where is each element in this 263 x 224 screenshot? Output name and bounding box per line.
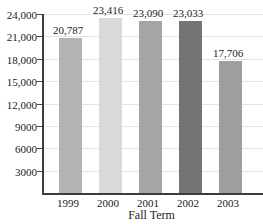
bar-value-label: 23,033	[158, 7, 218, 19]
y-tick-label: 15,000	[0, 76, 37, 88]
y-axis-tick	[37, 104, 42, 105]
bar-2003	[219, 61, 242, 193]
plot-area	[42, 14, 263, 195]
x-tick-label: 2003	[206, 197, 250, 209]
y-tick-label: 3000	[0, 166, 37, 178]
bar-2001	[139, 21, 162, 193]
bar-2000	[99, 18, 122, 193]
x-axis-title: Fall Term	[42, 209, 261, 222]
bar-1999	[59, 38, 82, 193]
bar-value-label: 17,706	[198, 47, 258, 59]
y-axis-tick	[37, 171, 42, 172]
y-axis-tick	[37, 126, 42, 127]
y-tick-label: 24,000	[0, 9, 37, 21]
y-axis-tick	[37, 81, 42, 82]
y-axis-tick	[37, 14, 42, 15]
y-tick-label: 18,000	[0, 54, 37, 66]
y-axis-tick	[37, 148, 42, 149]
y-tick-label: 21,000	[0, 31, 37, 43]
bar-chart: 30006000900012,00015,00018,00021,00024,0…	[0, 0, 263, 224]
y-axis-tick	[37, 36, 42, 37]
y-axis-tick	[37, 59, 42, 60]
y-tick-label: 9000	[0, 121, 37, 133]
x-tick-label: 2000	[86, 197, 130, 209]
y-tick-label: 6000	[0, 143, 37, 155]
bar-value-label: 20,787	[38, 24, 98, 36]
x-tick-label: 1999	[46, 197, 90, 209]
y-tick-label: 12,000	[0, 99, 37, 111]
